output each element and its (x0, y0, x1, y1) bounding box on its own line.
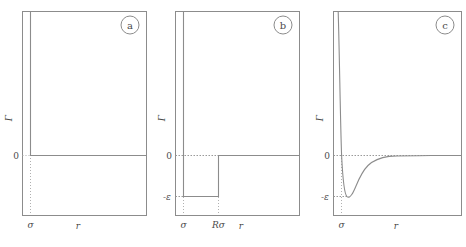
panel-c-xlabel: r (394, 221, 399, 231)
panel-a-potential-curve (31, 12, 147, 156)
panel-c-letter: c (442, 20, 448, 31)
panel-c-ytick-zero: 0 (324, 151, 330, 161)
panel-b-letter: b (280, 20, 286, 31)
panel-c-ylabel: Γ (315, 114, 325, 122)
panel-c-ytick-epsilon: -ε (321, 192, 329, 202)
panel-a-letter: a (127, 20, 133, 31)
panel-b: Γ 0 -ε σ Rσ r b (153, 0, 308, 247)
panel-c-xtick-sigma: σ (338, 220, 345, 230)
panel-b-ytick-zero: 0 (166, 151, 172, 161)
panel-c-potential-curve (338, 12, 461, 198)
panel-b-xlabel: r (239, 221, 244, 231)
panel-a-ylabel: Γ (4, 114, 14, 122)
panel-b-ytick-epsilon: -ε (163, 192, 171, 202)
potential-energy-figure: Γ 0 σ r a Γ 0 -ε (0, 0, 466, 247)
panel-b-potential-curve (184, 12, 300, 197)
panel-b-xtick-sigma: σ (180, 220, 187, 230)
panel-a: Γ 0 σ r a (0, 0, 155, 247)
panel-c-frame (334, 12, 462, 216)
panel-b-frame (176, 12, 300, 216)
panel-b-xtick-rsigma: Rσ (211, 220, 226, 230)
panel-c: Γ 0 -ε σ r c (311, 0, 466, 247)
panel-a-frame (23, 12, 147, 216)
panel-a-ytick-zero: 0 (13, 151, 19, 161)
panel-b-ylabel: Γ (157, 114, 167, 122)
panel-a-xlabel: r (76, 221, 81, 231)
panel-a-xtick-sigma: σ (27, 220, 34, 230)
